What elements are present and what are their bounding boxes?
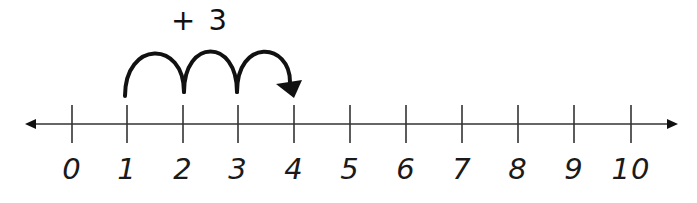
tick-label: 1 bbox=[102, 152, 152, 186]
jump-label: + 3 bbox=[170, 3, 230, 37]
left-arrow-icon bbox=[25, 119, 36, 129]
number-line-diagram: + 3 012345678910 bbox=[0, 0, 697, 203]
tick-label: 6 bbox=[381, 152, 431, 186]
tick-label: 3 bbox=[213, 152, 263, 186]
jump-arrowhead-icon bbox=[276, 80, 302, 98]
tick-label: 9 bbox=[549, 152, 599, 186]
tick-label: 10 bbox=[606, 152, 656, 186]
tick-label: 0 bbox=[47, 152, 97, 186]
tick-label: 8 bbox=[493, 152, 543, 186]
tick-label: 4 bbox=[269, 152, 319, 186]
tick-label: 7 bbox=[437, 152, 487, 186]
tick-label: 2 bbox=[158, 152, 208, 186]
tick-label: 5 bbox=[325, 152, 375, 186]
right-arrow-icon bbox=[667, 119, 678, 129]
jump-arc-1 bbox=[125, 53, 184, 96]
jump-arc-2 bbox=[184, 52, 237, 93]
